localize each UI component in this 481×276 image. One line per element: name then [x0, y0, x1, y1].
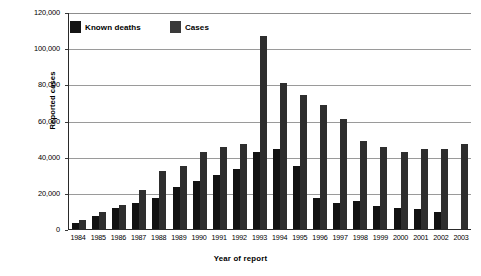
bar-group [411, 13, 431, 229]
black-square-icon [70, 21, 81, 33]
bar-cases [99, 212, 106, 229]
bar-cases [461, 144, 468, 229]
x-axis-tick-label: 1999 [370, 233, 390, 242]
bar-cases [119, 205, 126, 229]
bar-group [270, 13, 290, 229]
bar-group [230, 13, 250, 229]
legend-label: Known deaths [85, 23, 141, 32]
bar-known-deaths [293, 166, 300, 229]
bar-known-deaths [273, 149, 280, 229]
bar-group [69, 13, 89, 229]
y-axis-tick-label: 120,000 [0, 9, 60, 17]
bar-known-deaths [233, 169, 240, 229]
chart-legend: Known deaths Cases [70, 21, 209, 33]
bar-cases [340, 119, 347, 229]
x-axis-tick-label: 1988 [149, 233, 169, 242]
bar-cases [159, 171, 166, 229]
bar-cases [401, 152, 408, 229]
y-axis-tick-labels: 020,00040,00060,00080,000100,000120,000 [0, 0, 64, 276]
bar-group [89, 13, 109, 229]
x-axis-tick-labels: 1984198519861987198819891990199119921993… [68, 233, 471, 242]
bar-known-deaths [132, 203, 139, 229]
y-axis-tick-label: 40,000 [0, 154, 60, 162]
bar-known-deaths [173, 187, 180, 230]
bar-known-deaths [333, 203, 340, 229]
bar-known-deaths [152, 198, 159, 229]
x-axis-tick-label: 1997 [330, 233, 350, 242]
x-axis-tick-label: 1996 [310, 233, 330, 242]
bar-chart: Reported cases 020,00040,00060,00080,000… [0, 0, 481, 276]
bar-known-deaths [72, 223, 79, 229]
bar-known-deaths [414, 209, 421, 229]
y-axis-tick-label: 20,000 [0, 190, 60, 198]
bar-cases [79, 220, 86, 229]
y-axis-tick-label: 60,000 [0, 118, 60, 126]
bar-cases [220, 147, 227, 229]
bar-group [310, 13, 330, 229]
bar-group [431, 13, 451, 229]
bar-group [169, 13, 189, 229]
bar-group [350, 13, 370, 229]
x-axis-title: Year of report [0, 254, 481, 263]
bar-cases [240, 144, 247, 229]
x-axis-tick-label: 1991 [209, 233, 229, 242]
bar-known-deaths [313, 198, 320, 229]
bar-group [290, 13, 310, 229]
gray-square-icon [170, 21, 181, 33]
bar-cases [360, 141, 367, 229]
bar-groups [69, 13, 471, 229]
x-axis-tick-label: 1994 [270, 233, 290, 242]
legend-label: Cases [185, 23, 209, 32]
bar-group [451, 13, 471, 229]
bar-cases [441, 149, 448, 229]
x-axis-tick-label: 1986 [108, 233, 128, 242]
bar-cases [200, 152, 207, 229]
x-axis-tick-label: 2003 [451, 233, 471, 242]
x-axis-tick-label: 1995 [290, 233, 310, 242]
bar-known-deaths [353, 201, 360, 229]
x-axis-tick-label: 1992 [229, 233, 249, 242]
bar-group [190, 13, 210, 229]
bar-cases [280, 83, 287, 229]
bar-known-deaths [213, 175, 220, 229]
x-axis-tick-label: 1985 [88, 233, 108, 242]
x-axis-tick-label: 1993 [249, 233, 269, 242]
x-axis-tick-label: 2000 [391, 233, 411, 242]
y-axis-tick-label: 100,000 [0, 45, 60, 53]
x-axis-tick-label: 2001 [411, 233, 431, 242]
bar-known-deaths [112, 208, 119, 229]
x-axis-tick-label: 2002 [431, 233, 451, 242]
bar-group [250, 13, 270, 229]
plot-area [68, 13, 471, 230]
bar-cases [421, 149, 428, 229]
x-axis-tick-label: 1998 [350, 233, 370, 242]
bar-group [210, 13, 230, 229]
legend-item-cases: Cases [170, 21, 209, 33]
y-axis-tick-mark [65, 230, 68, 231]
bar-group [370, 13, 390, 229]
bar-cases [320, 105, 327, 229]
bar-cases [260, 36, 267, 229]
x-axis-tick-label: 1987 [128, 233, 148, 242]
y-axis-tick-label: 80,000 [0, 81, 60, 89]
bar-cases [380, 147, 387, 229]
bar-known-deaths [434, 212, 441, 229]
bar-group [129, 13, 149, 229]
bar-cases [139, 190, 146, 229]
bar-group [109, 13, 129, 229]
bar-cases [180, 166, 187, 229]
bar-group [149, 13, 169, 229]
bar-known-deaths [193, 181, 200, 229]
x-axis-tick-label: 1990 [189, 233, 209, 242]
bar-group [330, 13, 350, 229]
bar-known-deaths [92, 216, 99, 229]
bar-group [391, 13, 411, 229]
y-axis-tick-label: 0 [0, 226, 60, 234]
x-axis-tick-label: 1984 [68, 233, 88, 242]
bar-known-deaths [394, 208, 401, 229]
legend-item-known-deaths: Known deaths [70, 21, 141, 33]
bar-cases [300, 95, 307, 229]
bar-known-deaths [253, 152, 260, 229]
x-axis-tick-label: 1989 [169, 233, 189, 242]
bar-known-deaths [373, 206, 380, 230]
